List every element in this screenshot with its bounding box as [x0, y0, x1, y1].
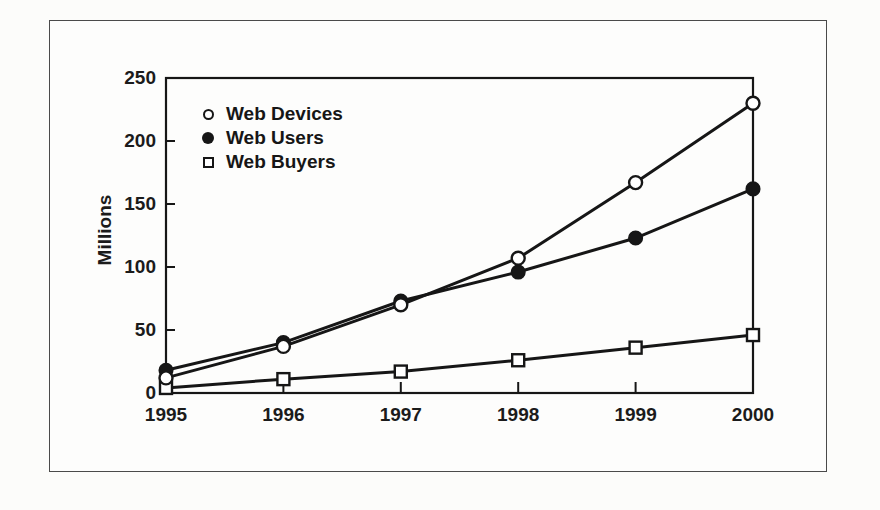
legend-label: Web Users [226, 127, 324, 149]
x-tick-label: 1998 [486, 404, 550, 426]
marker-open-circle-web-devices [629, 176, 642, 189]
y-tick-label: 150 [106, 193, 156, 215]
x-tick-label: 1997 [369, 404, 433, 426]
y-tick-label: 200 [106, 130, 156, 152]
x-tick-label: 1996 [251, 404, 315, 426]
y-tick-label: 50 [106, 319, 156, 341]
legend-item-web-devices: Web Devices [200, 102, 343, 126]
marker-open-square-web-buyers [630, 342, 642, 354]
page: Millions Web Devices Web Users Web Buyer… [0, 0, 880, 510]
marker-filled-circle-web-users [511, 265, 525, 279]
y-axis-title: Millions [94, 133, 118, 327]
marker-open-circle-web-devices [160, 371, 173, 384]
legend-label: Web Buyers [226, 151, 335, 173]
open-circle-icon [200, 106, 216, 122]
legend-item-web-buyers: Web Buyers [200, 150, 343, 174]
marker-open-circle-web-devices [277, 340, 290, 353]
x-tick-label: 1995 [134, 404, 198, 426]
legend: Web Devices Web Users Web Buyers [200, 102, 343, 174]
open-square-icon [200, 154, 216, 170]
y-tick-label: 0 [106, 382, 156, 404]
legend-label: Web Devices [226, 103, 343, 125]
y-tick-label: 100 [106, 256, 156, 278]
marker-open-circle-web-devices [747, 97, 760, 110]
marker-open-square-web-buyers [277, 373, 289, 385]
marker-open-square-web-buyers [747, 329, 759, 341]
marker-open-circle-web-devices [394, 298, 407, 311]
marker-filled-circle-web-users [746, 182, 760, 196]
marker-open-circle-web-devices [512, 252, 525, 265]
series-line-web-buyers [166, 335, 753, 388]
filled-circle-icon [200, 130, 216, 146]
chart-figure: Millions Web Devices Web Users Web Buyer… [49, 20, 827, 472]
marker-filled-circle-web-users [629, 231, 643, 245]
marker-open-square-web-buyers [512, 354, 524, 366]
marker-open-square-web-buyers [395, 366, 407, 378]
legend-item-web-users: Web Users [200, 126, 343, 150]
y-tick-label: 250 [106, 67, 156, 89]
x-tick-label: 1999 [604, 404, 668, 426]
x-tick-label: 2000 [721, 404, 785, 426]
